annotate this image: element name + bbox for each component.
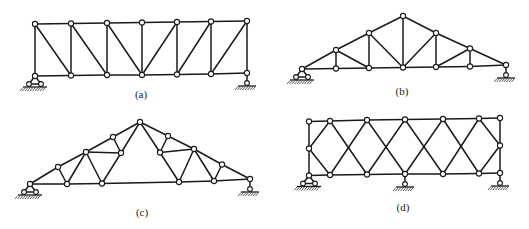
truss-joint [433,64,438,69]
truss-member [35,24,71,25]
truss-panel-b: (b) [287,13,515,98]
truss-joint [165,133,170,138]
truss-joint [208,71,213,76]
truss-joint [503,62,508,67]
truss-joint [440,116,445,121]
truss-member [369,33,403,68]
truss-joint [118,150,123,155]
truss-joint [402,171,407,176]
truss-panel-a: (a) [20,18,256,101]
truss-member [142,22,177,75]
truss-member [71,75,107,76]
truss-member [443,174,479,175]
truss-joint [497,143,502,148]
truss-joint [64,181,69,186]
truss-joint [191,146,196,151]
truss-joint [139,20,144,25]
roller-support-hinge [498,181,503,186]
truss-member [107,23,142,24]
truss-member [309,149,330,176]
pin-support-hinge [294,75,299,80]
pin-support-hinge [301,181,306,186]
roller-support-hinge [245,81,250,86]
truss-joint [306,146,311,151]
pin-support-hinge [27,82,32,87]
truss-joint [211,178,216,183]
pin-support-hinge [34,190,39,195]
truss-joint [68,21,73,26]
truss-member [367,174,405,175]
truss-joint [306,173,311,178]
truss-member [179,181,214,182]
pin-support-hinge [306,75,311,80]
truss-joint [476,171,481,176]
truss-member [470,65,506,67]
truss-member [309,175,330,176]
truss-member [107,23,142,75]
truss-member [336,33,369,50]
truss-member [336,50,369,68]
truss-member [160,153,179,183]
truss-joint [219,162,224,167]
truss-joint [157,150,162,155]
truss-joint [32,21,37,26]
truss-joint [299,66,304,71]
truss-member [369,16,403,33]
truss-joint [467,46,472,51]
truss-member [309,121,330,149]
truss-joint [110,134,115,139]
truss-member [479,146,500,174]
panel-label-d: (d) [397,201,410,214]
truss-joint [68,73,73,78]
roller-support-hinge [248,187,253,192]
truss-joint [497,115,502,120]
pin-support-hinge [313,181,318,186]
truss-joint [137,119,142,124]
truss-member [330,120,367,121]
truss-member [479,173,500,174]
truss-member [436,67,470,68]
truss-member [67,184,102,185]
truss-member [479,118,500,119]
truss-joint [497,170,502,175]
pin-support-hinge [22,190,27,195]
truss-panel-c: (c) [15,119,259,219]
truss-member [86,152,102,184]
truss-member [302,69,336,70]
truss-member [403,33,436,68]
truss-joint [55,164,60,169]
truss-member [436,33,470,49]
truss-members [30,122,250,184]
truss-member [211,21,247,74]
truss-joint [400,13,405,18]
truss-member [168,136,194,149]
truss-member [403,16,436,33]
truss-joint [333,47,338,52]
truss-member [142,22,177,23]
truss-joint [366,30,371,35]
truss-joint [400,65,405,70]
truss-nodes [27,119,252,186]
truss-joint [104,72,109,77]
truss-members [302,16,506,69]
truss-member [86,137,113,152]
truss-joint [174,72,179,77]
truss-supports [15,179,259,199]
truss-member [177,74,211,75]
panel-label-c: (c) [136,206,149,219]
truss-diagram: (a) (b) (c) (d) [0,0,529,229]
truss-joint [364,117,369,122]
truss-members [309,118,500,176]
truss-member [142,75,177,76]
truss-member [211,21,247,22]
truss-member [102,182,179,184]
truss-nodes [306,115,502,178]
truss-member [330,175,367,176]
truss-joint [476,116,481,121]
truss-member [479,119,500,146]
truss-member [35,76,71,77]
truss-joint [27,181,32,186]
truss-joint [83,149,88,154]
truss-joint [32,73,37,78]
truss-joint [104,20,109,25]
